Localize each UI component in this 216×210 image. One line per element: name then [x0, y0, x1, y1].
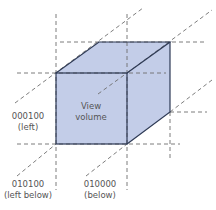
region-code-left: 000100 — [12, 111, 44, 121]
view-volume-diagram: View volume 000100 (left) 010100 (left b… — [0, 0, 216, 210]
guide-diagonal-right — [170, 80, 212, 112]
region-name-below: (below) — [84, 190, 116, 200]
region-code-left-below: 010100 — [12, 179, 44, 189]
region-name-left: (left) — [18, 122, 38, 132]
guide-diagonal-bottomleft — [17, 144, 56, 176]
guide-diagonal-bottommid — [86, 144, 127, 176]
region-name-left-below: (left below) — [4, 190, 52, 200]
region-code-below: 010000 — [84, 179, 116, 189]
view-volume-label-line2: volume — [75, 112, 107, 122]
view-volume-label-line1: View — [81, 101, 101, 111]
